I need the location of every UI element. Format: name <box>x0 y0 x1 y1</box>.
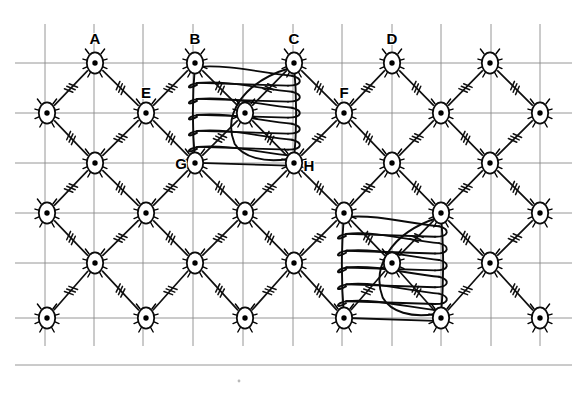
edge-hatch-tick <box>64 189 72 193</box>
edge-hatch-tick <box>417 86 421 94</box>
node-barb <box>545 327 548 332</box>
edge-hatch-tick <box>169 134 173 142</box>
node-barb <box>250 122 253 127</box>
lattice-node <box>233 199 257 227</box>
node-barb <box>200 72 203 77</box>
edge-hatch-tick <box>461 231 465 239</box>
node-center-dot <box>537 315 542 320</box>
edge-hatch-tick <box>464 234 468 242</box>
edge-hatch-tick <box>164 189 172 193</box>
node-barb <box>100 72 103 77</box>
edge-hatch-tick <box>218 234 226 238</box>
node-center-dot <box>192 60 197 65</box>
edge-hatch-tick <box>312 239 320 243</box>
node-barb <box>337 122 340 127</box>
node-center-dot <box>192 260 197 265</box>
node-barb <box>385 72 388 77</box>
node-barb <box>299 272 302 277</box>
lattice-node <box>429 99 453 127</box>
coil-turn-back-right <box>288 140 300 150</box>
node-center-dot <box>291 260 296 265</box>
node-barb <box>495 272 498 277</box>
node-center-dot <box>92 60 97 65</box>
node-barb <box>37 99 41 104</box>
node-barb <box>88 172 91 177</box>
node-barb <box>139 327 142 332</box>
coil-turn-back-right <box>288 92 300 102</box>
edge-hatch-tick <box>412 181 416 189</box>
edge-hatch-tick <box>114 238 122 242</box>
lattice-node <box>478 149 502 177</box>
edge-hatch-tick <box>317 184 321 192</box>
node-center-dot <box>242 210 247 215</box>
node-barb <box>546 304 550 309</box>
node-barb <box>533 122 536 127</box>
edge-hatch-tick <box>511 181 515 189</box>
lattice-node <box>429 199 453 227</box>
node-center-dot <box>537 110 542 115</box>
node-center-dot <box>341 110 346 115</box>
node-barb <box>349 122 352 127</box>
coil-turn-front <box>197 66 292 75</box>
node-barb <box>88 72 91 77</box>
node-center-dot <box>389 160 394 165</box>
node-barb <box>37 199 41 204</box>
node-barb <box>287 272 290 277</box>
node-barb <box>545 122 548 127</box>
node-center-dot <box>537 210 542 215</box>
node-barb <box>88 272 91 277</box>
edge-hatch-tick <box>466 136 470 144</box>
node-label-e: E <box>141 84 151 101</box>
edge-hatch-tick <box>270 236 274 244</box>
edge-hatch-tick <box>466 236 470 244</box>
edge-hatch-tick <box>263 189 271 193</box>
node-barb <box>398 49 402 54</box>
edge-hatch-tick <box>461 186 469 190</box>
edge-hatch-tick <box>461 131 465 139</box>
edge-hatch-tick <box>64 89 72 93</box>
node-center-dot <box>341 315 346 320</box>
edge-hatch-tick <box>268 234 272 242</box>
edge-hatch-tick <box>119 84 123 92</box>
node-barb <box>139 122 142 127</box>
node-barb <box>483 72 486 77</box>
node-barb <box>250 327 253 332</box>
lattice-node <box>478 49 502 77</box>
edge-hatch-tick <box>221 186 225 194</box>
node-barb <box>480 49 484 54</box>
node-center-dot <box>487 60 492 65</box>
edge-hatch-tick <box>516 86 520 94</box>
lattice-node <box>183 49 207 77</box>
edge-hatch-tick <box>169 234 173 242</box>
node-barb <box>238 222 241 227</box>
node-barb <box>284 49 288 54</box>
lattice-diagram-canvas: ABCDEFGH <box>0 0 581 397</box>
edge-hatch-tick <box>415 184 419 192</box>
node-barb <box>40 122 43 127</box>
edge-hatch-tick <box>169 84 177 88</box>
node-barb <box>299 172 302 177</box>
node-center-dot <box>438 210 443 215</box>
node-barb <box>446 327 449 332</box>
node-center-dot <box>242 110 247 115</box>
edge-hatch-tick <box>166 86 174 90</box>
edge-hatch-tick <box>218 84 222 92</box>
edge-hatch-tick <box>218 184 222 192</box>
coil-turn-back-right <box>288 124 300 134</box>
node-center-dot <box>44 210 49 215</box>
edge-hatch-tick <box>366 84 374 88</box>
node-barb <box>100 172 103 177</box>
edge-hatch-tick <box>320 186 324 194</box>
node-barb <box>349 327 352 332</box>
node-label-a: A <box>90 30 101 47</box>
coil-turn-back-right <box>288 76 300 86</box>
node-center-dot <box>291 160 296 165</box>
edge-hatch-tick <box>513 134 521 138</box>
node-barb <box>385 272 388 277</box>
node-center-dot <box>143 110 148 115</box>
node-center-dot <box>143 315 148 320</box>
node-barb <box>151 222 154 227</box>
edge-hatch-tick <box>116 181 120 189</box>
node-barb <box>337 327 340 332</box>
edge-hatch-tick <box>268 184 276 188</box>
